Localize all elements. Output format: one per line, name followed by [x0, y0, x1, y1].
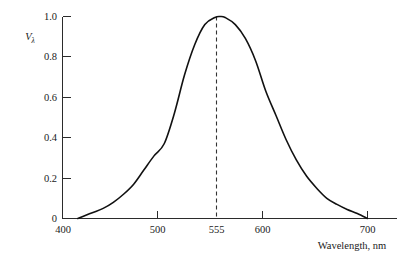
x-tick-label-700: 700 — [360, 224, 376, 235]
x-tick-label-600: 600 — [255, 224, 271, 235]
figure-container: 1.0 0.8 0.6 0.4 0.2 0 400 500 555 600 70… — [0, 0, 416, 260]
y-axis-title: Vλ — [25, 31, 35, 45]
x-tick-label-400: 400 — [55, 224, 71, 235]
y-tick-label-1.0: 1.0 — [44, 11, 57, 22]
x-tick-label-555: 555 — [209, 224, 225, 235]
axes-group — [63, 17, 397, 219]
y-tick-label-0.2: 0.2 — [44, 173, 57, 184]
x-axis-title: Wavelength, nm — [318, 240, 387, 251]
y-axis-title-subscript: λ — [31, 36, 36, 45]
y-tick-label-0.8: 0.8 — [44, 51, 57, 62]
y-tick-label-0.6: 0.6 — [44, 92, 57, 103]
y-tick-labels: 1.0 0.8 0.6 0.4 0.2 0 — [44, 11, 58, 224]
efficiency-curve — [78, 16, 368, 218]
y-tick-marks — [63, 17, 71, 179]
y-tick-label-0.4: 0.4 — [44, 132, 58, 143]
y-tick-label-0: 0 — [52, 213, 57, 224]
x-tick-labels: 400 500 555 600 700 — [55, 224, 375, 235]
x-tick-marks — [158, 211, 368, 219]
x-tick-label-500: 500 — [150, 224, 166, 235]
luminous-efficiency-chart: 1.0 0.8 0.6 0.4 0.2 0 400 500 555 600 70… — [0, 0, 416, 260]
